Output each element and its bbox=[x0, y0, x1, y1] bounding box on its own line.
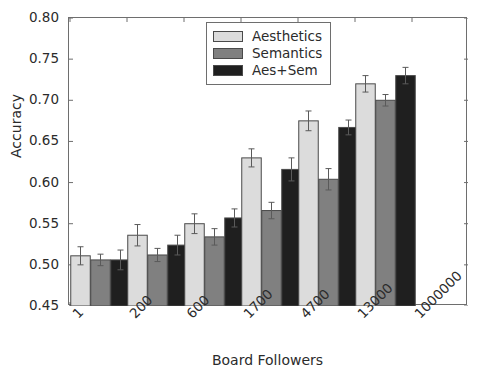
bar bbox=[91, 260, 111, 306]
bar bbox=[396, 76, 416, 306]
legend-item: Aes+Sem bbox=[213, 62, 322, 79]
x-tick-label: 1 bbox=[69, 304, 86, 321]
chart-legend: AestheticsSemanticsAes+Sem bbox=[206, 22, 331, 85]
legend-label: Semantics bbox=[252, 46, 322, 61]
bar bbox=[376, 100, 396, 306]
y-tick-label: 0.45 bbox=[0, 297, 59, 313]
legend-swatch-icon bbox=[213, 48, 243, 59]
bar-chart-figure: Accuracy 0.450.500.550.600.650.700.750.8… bbox=[0, 0, 492, 378]
bar bbox=[299, 121, 319, 306]
bar bbox=[242, 158, 262, 306]
y-tick-label: 0.50 bbox=[0, 256, 59, 272]
y-tick-label: 0.80 bbox=[0, 9, 59, 25]
legend-item: Aesthetics bbox=[213, 28, 322, 45]
bar bbox=[205, 237, 225, 306]
y-axis-label: Accuracy bbox=[8, 46, 24, 206]
legend-swatch-icon bbox=[213, 31, 243, 42]
legend-label: Aesthetics bbox=[252, 29, 322, 44]
bar bbox=[356, 84, 376, 306]
legend-swatch-icon bbox=[213, 65, 243, 76]
legend-label: Aes+Sem bbox=[252, 63, 318, 78]
legend-item: Semantics bbox=[213, 45, 322, 62]
y-tick-label: 0.55 bbox=[0, 215, 59, 231]
x-axis-label: Board Followers bbox=[68, 352, 467, 368]
